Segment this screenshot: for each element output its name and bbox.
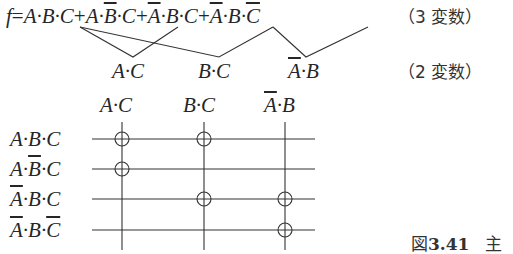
connector-nab [273,27,368,57]
connector-bc [80,27,273,57]
connector-ac [80,27,178,57]
caption-text: 主 [485,234,502,254]
caption-label: 図 [411,234,428,254]
diagram-lines [0,0,513,254]
figure-caption: 図3.41主 [411,230,502,254]
caption-number: 3.41 [428,234,469,254]
